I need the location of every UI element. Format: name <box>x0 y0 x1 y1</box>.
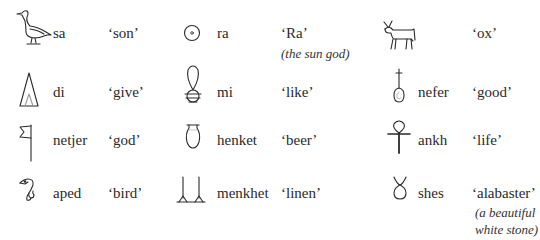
transliteration: di <box>53 83 65 101</box>
transliteration: mi <box>217 83 233 101</box>
meaning: ‘bird’ <box>108 184 142 202</box>
transliteration: menkhet <box>217 184 269 202</box>
transliteration: henket <box>217 131 257 149</box>
meaning: ‘life’ <box>472 131 502 149</box>
transliteration: aped <box>53 184 81 202</box>
meaning: ‘god’ <box>108 131 141 149</box>
flag-icon <box>18 124 36 162</box>
transliteration: netjer <box>53 131 87 149</box>
linen-icon <box>176 176 206 204</box>
meaning: ‘Ra’ <box>281 24 308 42</box>
transliteration: nefer <box>418 83 449 101</box>
sun-disk-icon <box>183 24 201 42</box>
cone-icon <box>18 72 40 108</box>
ankh-icon <box>386 120 412 154</box>
meaning: ‘give’ <box>108 83 144 101</box>
transliteration: sa <box>53 24 66 42</box>
gloss-note-line2: white stone) <box>475 221 538 238</box>
meaning: ‘ox’ <box>472 24 497 42</box>
meaning: ‘linen’ <box>281 184 321 202</box>
milk-jug-icon <box>184 66 202 106</box>
shes-knot-icon <box>392 176 408 200</box>
gloss-note: (the sun god) <box>281 45 350 62</box>
transliteration: ra <box>217 24 229 42</box>
ox-icon <box>382 20 420 52</box>
transliteration: shes <box>418 184 444 202</box>
meaning: ‘alabaster’ <box>472 184 536 202</box>
meaning: ‘son’ <box>108 24 139 42</box>
bird-head-icon <box>18 176 38 202</box>
transliteration: ankh <box>418 131 447 149</box>
meaning: ‘good’ <box>472 83 512 101</box>
nefer-heart-windpipe-icon <box>393 68 405 104</box>
beer-jar-icon <box>185 124 201 150</box>
gloss-note-line1: (a beautiful <box>475 204 535 221</box>
meaning: ‘beer’ <box>281 131 317 149</box>
meaning: ‘like’ <box>281 83 313 101</box>
duck-icon <box>14 8 54 46</box>
